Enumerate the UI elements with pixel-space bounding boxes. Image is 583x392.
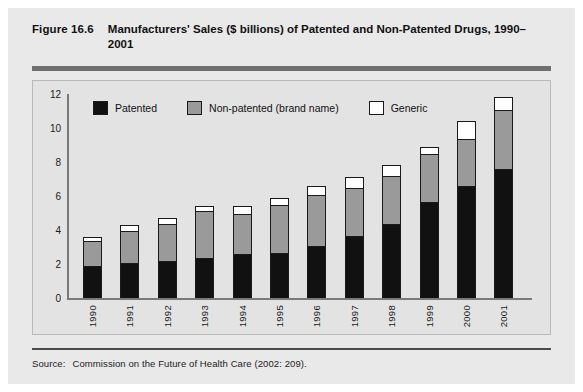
bar-segment-non-patented-brand-name [158, 225, 177, 262]
legend-swatch-icon [187, 101, 202, 115]
bar-segment-generic [345, 177, 364, 189]
x-tick-label-1995: 1995 [274, 305, 285, 327]
bar-segment-non-patented-brand-name [195, 212, 214, 259]
bar-1999 [420, 147, 439, 298]
legend-label: Non-patented (brand name) [209, 102, 339, 114]
x-tick-label-1991: 1991 [124, 305, 135, 327]
bar-segment-non-patented-brand-name [270, 206, 289, 254]
x-tick-label-1997: 1997 [349, 305, 360, 327]
bar-segment-generic [382, 165, 401, 177]
source-citation: Commission on the Future of Health Care … [72, 358, 306, 369]
bar-1991 [120, 225, 139, 298]
bar-segment-non-patented-brand-name [457, 140, 476, 188]
bar-1995 [270, 198, 289, 298]
bar-segment-non-patented-brand-name [345, 189, 364, 237]
bar-segment-patented [382, 225, 401, 298]
bar-segment-patented [270, 254, 289, 298]
bar-segment-patented [120, 264, 139, 298]
bar-segment-patented [420, 203, 439, 298]
bar-segment-non-patented-brand-name [83, 242, 102, 267]
legend-swatch-icon [93, 101, 108, 115]
figure-number: Figure 16.6 [32, 22, 108, 37]
legend-item-generic: Generic [369, 101, 458, 115]
chart-panel: PatentedNon-patented (brand name)Generic… [32, 80, 551, 335]
figure-title: Manufacturers' Sales ($ billions) of Pat… [108, 22, 538, 52]
y-tick-label: 10 [41, 123, 61, 134]
source-note: Source:Commission on the Future of Healt… [32, 358, 307, 369]
bar-segment-patented [233, 255, 252, 298]
bar-segment-non-patented-brand-name [494, 111, 513, 171]
y-tick-label: 2 [41, 259, 61, 270]
bar-segment-non-patented-brand-name [233, 215, 252, 256]
bar-2000 [457, 121, 476, 298]
x-tick-label-1992: 1992 [162, 305, 173, 327]
bar-1994 [233, 206, 252, 298]
x-tick-label-1998: 1998 [386, 305, 397, 327]
bar-1997 [345, 177, 364, 298]
bar-segment-generic [233, 206, 252, 215]
bar-1990 [83, 237, 102, 298]
title-divider-rule [32, 66, 551, 71]
x-tick-label-2001: 2001 [498, 305, 509, 327]
x-tick-label-1996: 1996 [311, 305, 322, 327]
bar-segment-patented [457, 187, 476, 298]
bar-segment-patented [494, 170, 513, 298]
x-axis-line [67, 298, 532, 300]
figure-container: Figure 16.6 Manufacturers' Sales ($ bill… [8, 8, 575, 384]
bar-1993 [195, 206, 214, 298]
x-tick-label-2000: 2000 [461, 305, 472, 327]
source-label: Source: [32, 358, 65, 369]
bar-segment-generic [158, 218, 177, 225]
bar-segment-patented [345, 237, 364, 298]
bar-1998 [382, 165, 401, 298]
legend-item-non-patented-brand-name: Non-patented (brand name) [187, 101, 369, 115]
x-tick-label-1993: 1993 [199, 305, 210, 327]
legend-item-patented: Patented [93, 101, 187, 115]
bar-1996 [307, 186, 326, 298]
bar-segment-generic [120, 225, 139, 232]
bar-1992 [158, 218, 177, 298]
bar-segment-non-patented-brand-name [120, 232, 139, 264]
bar-segment-non-patented-brand-name [307, 196, 326, 247]
bar-2001 [494, 97, 513, 298]
legend-swatch-icon [369, 101, 384, 115]
y-tick-label: 12 [41, 89, 61, 100]
bar-segment-patented [307, 247, 326, 298]
plot-area: PatentedNon-patented (brand name)Generic… [33, 81, 552, 336]
legend-label: Generic [391, 102, 428, 114]
x-tick-label-1990: 1990 [87, 305, 98, 327]
bar-segment-non-patented-brand-name [382, 177, 401, 225]
bar-segment-generic [307, 186, 326, 196]
bar-segment-patented [158, 262, 177, 298]
y-tick-label: 0 [41, 293, 61, 304]
legend-label: Patented [115, 102, 157, 114]
bar-segment-non-patented-brand-name [420, 155, 439, 203]
figure-title-block: Figure 16.6 Manufacturers' Sales ($ bill… [32, 22, 552, 52]
y-tick-label: 4 [41, 225, 61, 236]
y-tick-label: 6 [41, 191, 61, 202]
bar-segment-generic [457, 121, 476, 140]
y-tick-label: 8 [41, 157, 61, 168]
chart-legend: PatentedNon-patented (brand name)Generic [93, 101, 457, 115]
y-axis-line [67, 94, 69, 299]
x-tick-label-1999: 1999 [424, 305, 435, 327]
bar-segment-generic [494, 97, 513, 111]
bar-segment-generic [420, 147, 439, 156]
x-tick-label-1994: 1994 [237, 305, 248, 327]
source-divider-rule [32, 348, 551, 350]
bar-segment-patented [83, 267, 102, 298]
bar-segment-generic [270, 198, 289, 207]
bar-segment-patented [195, 259, 214, 298]
